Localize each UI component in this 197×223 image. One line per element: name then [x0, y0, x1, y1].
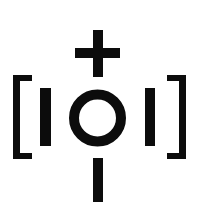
left-bar-icon	[40, 88, 51, 146]
bottom-bar-icon	[93, 158, 103, 202]
circle-icon	[74, 95, 121, 142]
left-bracket-icon	[13, 75, 32, 159]
right-bracket-icon	[167, 75, 186, 159]
plus-icon	[75, 30, 120, 77]
right-bar-icon	[145, 88, 155, 146]
symbol-figure: bracketed circle with plus and bars	[0, 0, 197, 223]
